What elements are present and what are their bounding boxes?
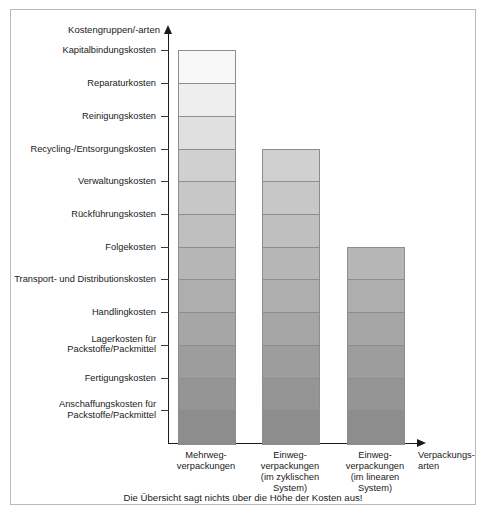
y-axis-title: Kostengruppen/-arten <box>68 24 160 35</box>
x-axis-category-label: Einweg- verpackungen (im linearen System… <box>320 450 430 494</box>
y-axis-tick <box>161 83 169 84</box>
y-axis-line <box>168 33 169 444</box>
bar-segment <box>179 84 235 117</box>
y-axis-tick <box>161 312 169 313</box>
bar-segment <box>348 248 404 281</box>
y-axis-category-label: Folgekosten <box>0 242 156 253</box>
bar-segment <box>179 280 235 313</box>
bar-segment <box>348 346 404 379</box>
x-axis-title: Verpackungs- arten <box>418 450 484 472</box>
bar-segment <box>348 280 404 313</box>
bar-segment <box>179 313 235 346</box>
y-axis-category-label: Fertigungskosten <box>0 373 156 384</box>
y-axis-tick <box>161 149 169 150</box>
bar-2 <box>262 149 320 445</box>
bar-segment <box>263 313 319 346</box>
bar-segment <box>179 182 235 215</box>
y-axis-category-label: Handlingkosten <box>0 307 156 318</box>
y-axis-tick <box>161 181 169 182</box>
y-axis-category-label: Anschaffungskosten für Packstoffe/Packmi… <box>0 399 156 420</box>
y-axis-tick <box>161 116 169 117</box>
bar-segment <box>263 379 319 412</box>
y-axis-category-label: Transport- und Distributionskosten <box>0 274 156 285</box>
y-axis-tick <box>161 410 169 411</box>
bar-segment <box>263 248 319 281</box>
bar-segment <box>263 411 319 444</box>
y-axis-category-label: Reinigungskosten <box>0 111 156 122</box>
bar-1 <box>178 50 236 445</box>
bar-segment <box>263 280 319 313</box>
y-axis-category-label: Lagerkosten für Packstoffe/Packmittel <box>0 334 156 355</box>
bar-segment <box>179 51 235 84</box>
y-axis-category-label: Rückführungskosten <box>0 209 156 220</box>
bar-segment <box>263 346 319 379</box>
y-axis-category-label: Reparaturkosten <box>0 78 156 89</box>
y-axis-category-label: Verwaltungskosten <box>0 176 156 187</box>
bar-segment <box>179 248 235 281</box>
figure-caption: Die Übersicht sagt nichts über die Höhe … <box>11 492 475 503</box>
bar-segment <box>179 215 235 248</box>
bar-segment <box>179 346 235 379</box>
bar-segment <box>263 150 319 183</box>
bar-segment <box>263 215 319 248</box>
bar-segment <box>348 379 404 412</box>
bar-segment <box>348 313 404 346</box>
y-axis-tick <box>161 279 169 280</box>
bar-3 <box>347 247 405 445</box>
y-axis-tick <box>161 345 169 346</box>
figure-container: Kostengruppen/-arten Kapitalbindungskost… <box>0 0 488 526</box>
y-axis-tick <box>161 214 169 215</box>
y-axis-category-label: Kapitalbindungskosten <box>0 45 156 56</box>
bar-segment <box>179 411 235 444</box>
y-axis-arrow-icon <box>164 25 172 34</box>
x-axis-arrow-icon <box>417 439 426 447</box>
bar-segment <box>179 379 235 412</box>
y-axis-tick <box>161 50 169 51</box>
bar-segment <box>263 182 319 215</box>
bar-segment <box>179 150 235 183</box>
bar-segment <box>348 411 404 444</box>
y-axis-tick <box>161 378 169 379</box>
y-axis-tick <box>161 247 169 248</box>
y-axis-category-label: Recycling-/Entsorgungskosten <box>0 144 156 155</box>
bar-segment <box>179 117 235 150</box>
